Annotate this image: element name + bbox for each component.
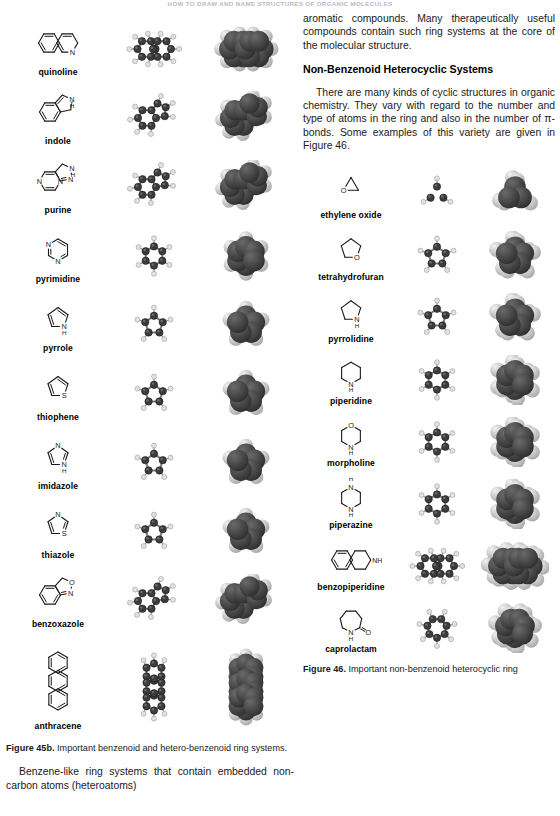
space-filling-cell [198,22,294,76]
skeletal-structure-cell: NHOcaprolactam [303,602,399,654]
ball-and-stick-cell [399,171,475,217]
skeletal-structure-cell: NHbenzopiperidine [303,540,399,592]
space-filling-pyrrolidine [481,293,549,343]
space-filling-ethylene-oxide [481,169,549,219]
ball-and-stick-imidazole [114,438,194,488]
space-filling-imidazole [204,436,288,490]
molecule-row: Otetrahydrofuran [303,225,555,287]
running-head: HOW TO DRAW AND NAME STRUCTURES OF ORGAN… [0,0,560,9]
right-column-intro-paragraph: There are many kinds of cyclic structure… [303,86,555,152]
molecule-row: NObenzoxazole [6,566,294,635]
right-column-top-paragraph: aromatic compounds. Many therapeutically… [303,12,555,52]
space-filling-morpholine [481,417,549,467]
ball-and-stick-cell [399,605,475,651]
section-heading-non-benzenoid: Non-Benzenoid Heterocyclic Systems [303,63,555,76]
svg-text:H: H [349,512,353,519]
skeletal-structure-cell: Otetrahydrofuran [303,230,399,282]
molecule-row: NHpiperidine [303,349,555,411]
skeletal-structure-cell: NNNNHpurine [6,159,110,215]
ball-and-stick-cell [110,93,198,143]
ball-and-stick-ethylene-oxide [405,171,469,217]
molecule-row: Sthiophene [6,359,294,428]
ball-and-stick-pyrrolidine [405,295,469,341]
molecule-name: piperidine [330,396,372,406]
ball-and-stick-piperidine [405,357,469,403]
space-filling-thiophene [204,367,288,421]
space-filling-anthracene [204,641,288,733]
skeletal-structure-thiazole: NS [19,504,97,548]
figure-45b-grid: NquinolineNHindoleNNNNHpurineNNpyrimidin… [6,14,294,739]
space-filling-cell [475,293,555,343]
space-filling-piperidine [481,355,549,405]
ball-and-stick-cell [110,24,198,74]
ball-and-stick-indole [114,93,194,143]
space-filling-cell [475,479,555,529]
figure-45b-caption: Figure 45b. Important benzenoid and hete… [6,743,294,754]
ball-and-stick-cell [399,357,475,403]
svg-text:O: O [348,421,354,430]
molecule-name: thiazole [42,550,75,560]
svg-text:N: N [55,256,60,265]
molecule-name: tetrahydrofuran [318,272,383,282]
svg-text:O: O [354,253,360,262]
skeletal-structure-pyrrole: NH [19,297,97,341]
molecule-row: NHOcaprolactam [303,597,555,659]
molecule-row: NNNNHpurine [6,152,294,221]
skeletal-structure-cell: NObenzoxazole [6,573,110,629]
space-filling-cell [198,367,294,421]
svg-text:O: O [366,628,372,637]
space-filling-quinoline [204,22,288,76]
svg-text:N: N [55,510,60,519]
molecule-name: caprolactam [325,644,377,654]
space-filling-thiazole [204,505,288,559]
skeletal-structure-cell: NHpiperidine [303,354,399,406]
svg-text:H: H [62,467,66,474]
svg-text:H: H [355,322,359,329]
ball-and-stick-cell [399,543,475,589]
molecule-name: purine [45,205,72,215]
ball-and-stick-cell [110,438,198,488]
skeletal-structure-cell: NHindole [6,90,110,146]
space-filling-pyrimidine [204,229,288,283]
skeletal-structure-cell: NNHimidazole [6,435,110,491]
skeletal-structure-cell: NHpyrrolidine [303,292,399,344]
ball-and-stick-cell [399,295,475,341]
molecule-name: piperazine [329,520,373,530]
svg-text:H: H [349,450,353,457]
skeletal-structure-cell: Sthiophene [6,366,110,422]
ball-and-stick-morpholine [405,419,469,465]
space-filling-cell [475,541,555,591]
skeletal-structure-thiophene: S [19,366,97,410]
svg-text:N: N [348,483,353,492]
space-filling-cell [198,641,294,733]
space-filling-cell [198,229,294,283]
svg-text:H: H [71,170,75,177]
svg-text:H: H [349,387,353,394]
molecule-row: NNHimidazole [6,428,294,497]
space-filling-pyrrole [204,298,288,352]
space-filling-cell [198,574,294,628]
skeletal-structure-morpholine: NOH [320,416,382,456]
svg-text:H: H [349,478,353,482]
skeletal-structure-caprolactam: NHO [320,602,382,642]
ball-and-stick-cell [110,643,198,731]
skeletal-structure-pyrrolidine: NH [320,292,382,332]
space-filling-cell [475,169,555,219]
svg-text:N: N [55,441,60,450]
ball-and-stick-anthracene [114,643,194,731]
skeletal-structure-quinoline: N [19,21,97,65]
skeletal-structure-indole: NH [19,90,97,134]
molecule-row: NNpyrimidine [6,221,294,290]
ball-and-stick-cell [110,231,198,281]
molecule-row: NSthiazole [6,497,294,566]
space-filling-purine [204,160,288,214]
space-filling-cell [475,231,555,281]
molecule-name: thiophene [37,412,79,422]
svg-text:H: H [349,635,353,642]
ball-and-stick-thiazole [114,507,194,557]
skeletal-structure-anthracene [19,643,97,719]
molecule-row: NHpyrrolidine [303,287,555,349]
ball-and-stick-pyrimidine [114,231,194,281]
ball-and-stick-cell [399,419,475,465]
skeletal-structure-benzopiperidine: NH [320,540,382,580]
